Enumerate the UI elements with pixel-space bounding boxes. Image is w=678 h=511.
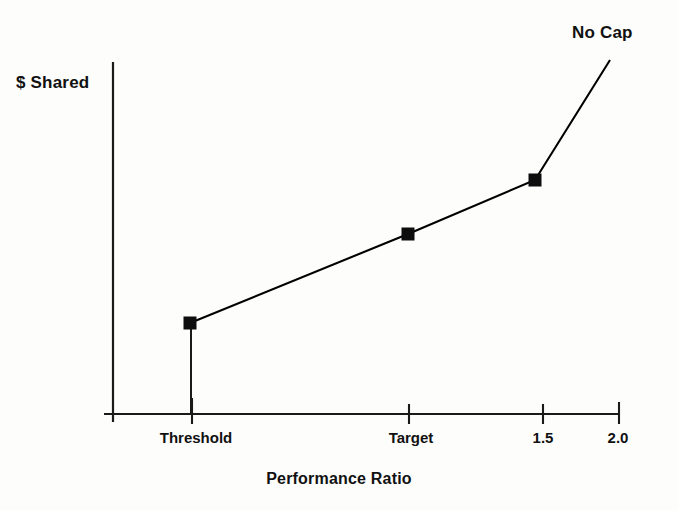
- x-tick-label-threshold: Threshold: [160, 430, 233, 445]
- no-cap-annotation-label: No Cap: [572, 24, 633, 41]
- chart-container: $ Shared No Cap Threshold Target 1.5 2.0…: [0, 0, 678, 511]
- data-point-target: [402, 228, 415, 241]
- data-point-threshold: [184, 317, 197, 330]
- payout-curve-line: [190, 60, 610, 323]
- data-point-1-5: [529, 174, 542, 187]
- x-tick-label-1-5: 1.5: [533, 430, 554, 445]
- x-tick-label-2-0: 2.0: [608, 430, 629, 445]
- chart-plot-area: [0, 0, 678, 511]
- x-tick-label-target: Target: [389, 430, 434, 445]
- y-axis-title: $ Shared: [16, 74, 89, 91]
- x-axis-title: Performance Ratio: [0, 471, 678, 487]
